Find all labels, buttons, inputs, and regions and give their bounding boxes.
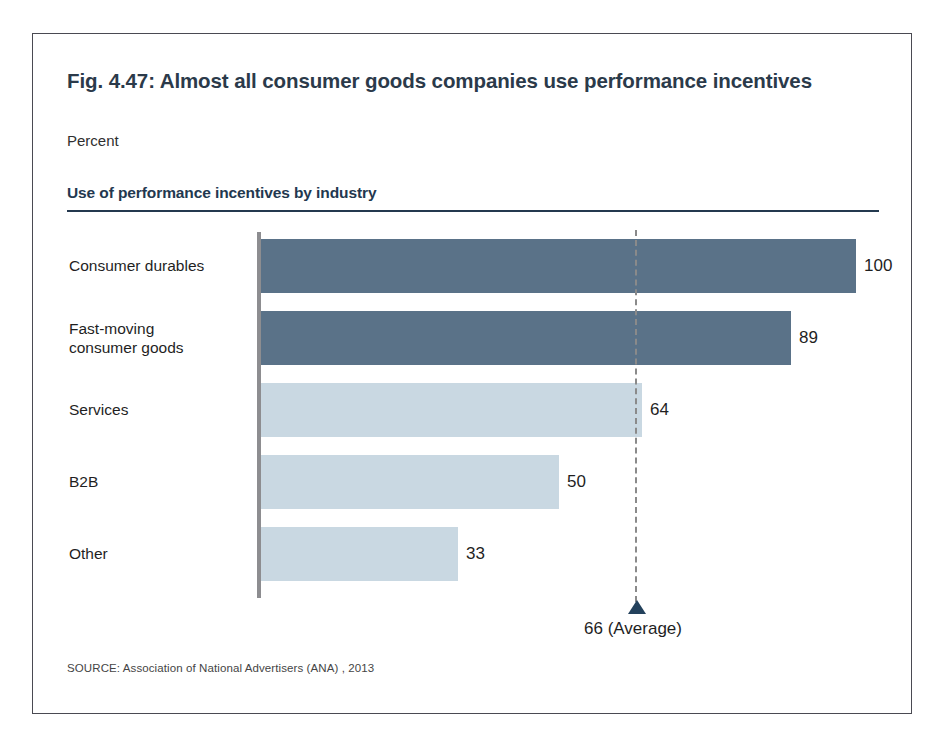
bar-row-services: 64 [261,383,642,437]
figure-frame: Fig. 4.47: Almost all consumer goods com… [32,33,912,714]
average-label: 66 (Average) [541,619,725,639]
category-label-line-1: Fast-moving [69,319,249,338]
bar-chart-plot-area: Consumer durables Fast-moving consumer g… [33,34,913,715]
category-label-other: Other [69,544,249,563]
bar-row-other: 33 [261,527,458,581]
category-label-consumer-durables: Consumer durables [69,256,249,275]
bar-b2b [261,455,559,509]
bar-row-consumer-durables: 100 [261,239,856,293]
category-label-line-1: B2B [69,472,249,491]
bar-row-fmcg: 89 [261,311,791,365]
category-label-line-1: Consumer durables [69,256,249,275]
bar-row-b2b: 50 [261,455,559,509]
bar-value-services: 64 [650,400,669,420]
average-marker-triangle-icon [628,600,646,614]
bar-value-fmcg: 89 [799,328,818,348]
bar-value-consumer-durables: 100 [864,256,892,276]
category-label-line-2: consumer goods [69,338,249,357]
category-label-services: Services [69,400,249,419]
source-note: SOURCE: Association of National Advertis… [67,662,374,674]
bar-value-other: 33 [466,544,485,564]
bar-services [261,383,642,437]
category-label-line-1: Other [69,544,249,563]
bar-fmcg [261,311,791,365]
category-label-b2b: B2B [69,472,249,491]
bar-consumer-durables [261,239,856,293]
average-reference-line [635,230,637,602]
category-label-fmcg: Fast-moving consumer goods [69,319,249,357]
category-label-line-1: Services [69,400,249,419]
bar-other [261,527,458,581]
bar-value-b2b: 50 [567,472,586,492]
